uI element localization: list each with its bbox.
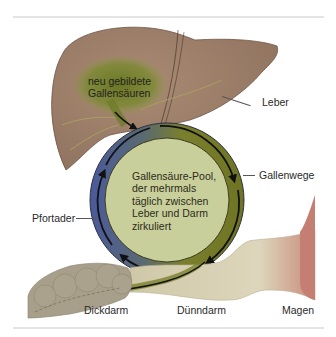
label-new-bile-acids-line2: Gallensäuren [88,87,151,99]
stomach [300,195,315,300]
pool-line-1: Gallensäure-Pool, [132,170,216,182]
label-portal-vein: Pfortader [32,212,75,224]
label-bile-acid-pool: Gallensäure-Pool, der mehrmals täglich z… [132,170,216,232]
label-new-bile-acids-line1: neu gebildete [88,75,151,87]
pool-line-4: Leber und Darm [132,207,216,219]
label-liver: Leber [262,96,289,108]
label-small-intestine: Dünndarm [177,304,226,316]
pool-line-5: zirkuliert [132,220,216,232]
leader-portal-vein [76,218,96,219]
label-new-bile-acids: neu gebildete Gallensäuren [88,75,151,99]
label-stomach: Magen [282,304,314,316]
label-bile-ducts: Gallenwege [259,169,314,181]
pool-line-2: der mehrmals [132,182,216,194]
leader-bile-ducts [243,175,255,176]
pool-line-3: täglich zwischen [132,195,216,207]
label-large-intestine: Dickdarm [84,304,128,316]
